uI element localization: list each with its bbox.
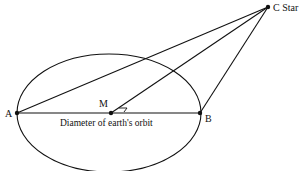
point-A [15, 111, 19, 115]
line-B-C [200, 7, 268, 113]
right-angle-marker [119, 108, 127, 112]
label-B: B [205, 113, 212, 124]
point-B [198, 111, 202, 115]
point-M [109, 111, 113, 115]
parallax-diagram: A M B C Star Diameter of earth's orbit [0, 0, 301, 171]
label-M: M [99, 98, 108, 109]
label-C-star: C Star [273, 2, 299, 13]
label-diameter: Diameter of earth's orbit [60, 118, 153, 128]
label-A: A [5, 108, 13, 119]
line-M-C [111, 7, 268, 113]
point-C [266, 5, 270, 9]
line-A-C [17, 7, 268, 113]
